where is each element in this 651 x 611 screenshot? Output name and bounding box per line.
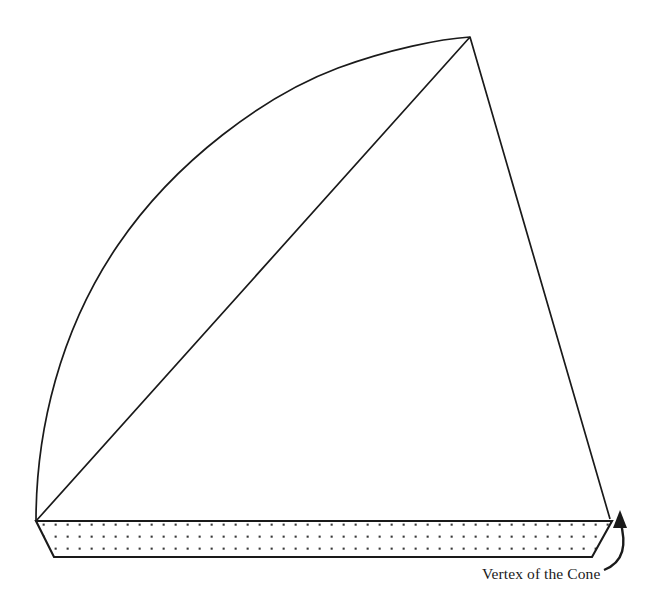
- sector-radii: [36, 37, 610, 521]
- vertex-arrow-head: [613, 510, 627, 528]
- vertex-label: Vertex of the Cone: [482, 565, 600, 583]
- band-fill: [36, 521, 612, 557]
- cone-development-figure: [0, 0, 651, 611]
- diagram-canvas: Vertex of the Cone: [0, 0, 651, 611]
